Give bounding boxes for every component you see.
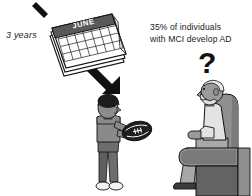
statistic-text: 35% of individuals with MCI develop AD: [150, 22, 250, 45]
timespan-label: 3 years: [6, 30, 37, 40]
young-man-figure: [96, 94, 141, 190]
question-mark-label: ?: [198, 48, 216, 78]
illustration-canvas: JUNE: [0, 0, 252, 196]
american-football-icon: [120, 119, 153, 144]
calendar-icon: JUNE: [50, 14, 126, 76]
